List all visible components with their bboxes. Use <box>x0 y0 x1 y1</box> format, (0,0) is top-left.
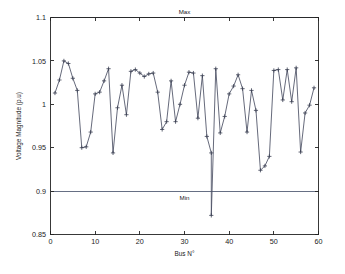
y-tick-label: 0.9 <box>36 187 46 196</box>
limit-annotation-min: Min <box>180 194 191 201</box>
x-tick-label: 20 <box>136 237 144 246</box>
x-tick-label: 50 <box>270 237 278 246</box>
x-tick-label: 60 <box>315 237 323 246</box>
limit-annotation-max: Max <box>179 8 192 15</box>
voltage-magnitude-chart: 01020304050600.850.90.9511.051.1Bus N°Vo… <box>0 0 345 274</box>
y-axis-title: Voltage Magnitude (p.u) <box>15 92 23 160</box>
x-tick-label: 0 <box>49 237 53 246</box>
y-tick-label: 1.05 <box>32 57 46 66</box>
y-tick-label: 1 <box>42 100 46 109</box>
y-tick-label: 1.1 <box>36 13 46 22</box>
chart-background <box>0 0 345 274</box>
x-tick-label: 30 <box>181 237 189 246</box>
y-tick-label: 0.95 <box>32 143 46 152</box>
x-tick-label: 40 <box>225 237 233 246</box>
chart-figure: 01020304050600.850.90.9511.051.1Bus N°Vo… <box>0 0 345 274</box>
x-tick-label: 10 <box>91 237 99 246</box>
x-axis-title: Bus N° <box>175 250 195 257</box>
y-tick-label: 0.85 <box>32 230 46 239</box>
